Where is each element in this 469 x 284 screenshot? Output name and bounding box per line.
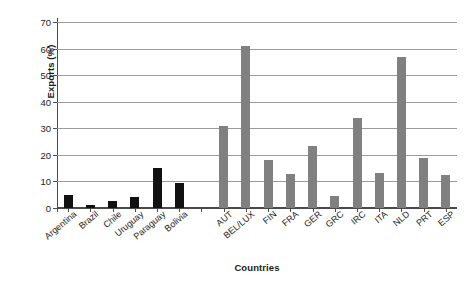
- bar-argentina: [64, 195, 73, 208]
- bar-nld: [397, 57, 406, 208]
- bar-irc: [353, 118, 362, 208]
- bar-fra: [286, 174, 295, 208]
- x-axis-title: Countries: [57, 262, 457, 273]
- y-tick-label: 60: [40, 43, 51, 54]
- bar-bel-lux: [241, 46, 250, 208]
- y-tick-label: 70: [40, 17, 51, 28]
- y-tick-label: 20: [40, 149, 51, 160]
- y-tick-label: 10: [40, 176, 51, 187]
- bar-chart-figure: Exports (%) 010203040506070 ArgentinaBra…: [0, 0, 469, 284]
- y-tick-label: 0: [46, 203, 51, 214]
- bars-group: [57, 22, 457, 208]
- plot-area: 010203040506070: [57, 22, 457, 208]
- y-tick-label: 50: [40, 70, 51, 81]
- x-tick-labels-group: ArgentinaBrazilChileUruguayParaguayBoliv…: [57, 209, 457, 261]
- bar-aut: [219, 126, 228, 208]
- y-tick-label: 30: [40, 123, 51, 134]
- y-tick-label: 40: [40, 96, 51, 107]
